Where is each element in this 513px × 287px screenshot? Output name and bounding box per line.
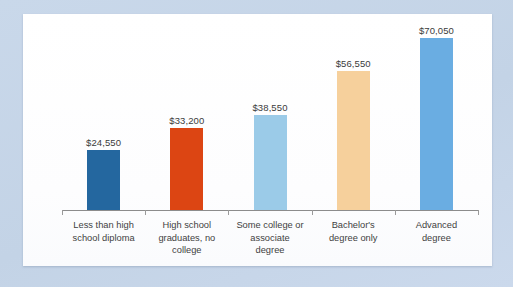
x-axis-tick [228, 210, 229, 215]
bar-bachelors-degree-only[interactable] [337, 71, 370, 210]
bar-column: $24,550 [62, 24, 145, 210]
x-axis-line [62, 210, 479, 211]
x-axis-tick [62, 210, 63, 215]
x-axis-category-labels: Less than highschool diploma High school… [62, 219, 478, 257]
chart-screenshot: $24,550 $33,200 $38,550 $56,550 $70,050 [0, 0, 513, 287]
bar-value-label: $70,050 [419, 25, 454, 36]
bar-some-college-or-associate[interactable] [254, 115, 287, 210]
bar-value-label: $24,550 [86, 137, 121, 148]
x-label-some-college-or-associate: Some college orassociatedegree [228, 219, 311, 257]
bar-column: $38,550 [228, 24, 311, 210]
bar-value-label: $56,550 [336, 58, 371, 69]
bar-column: $33,200 [145, 24, 228, 210]
plot-area: $24,550 $33,200 $38,550 $56,550 $70,050 [62, 24, 478, 210]
x-label-advanced-degree: Advanceddegree [395, 219, 478, 257]
x-axis-tick [145, 210, 146, 215]
bar-value-label: $33,200 [169, 115, 204, 126]
x-label-less-than-high-school: Less than highschool diploma [62, 219, 145, 257]
bar-less-than-high-school[interactable] [87, 150, 120, 210]
x-label-high-school-graduates: High schoolgraduates, nocollege [145, 219, 228, 257]
bar-advanced-degree[interactable] [420, 38, 453, 210]
x-label-bachelors-degree-only: Bachelor'sdegree only [312, 219, 395, 257]
bar-series: $24,550 $33,200 $38,550 $56,550 $70,050 [62, 24, 478, 210]
x-axis-tick [478, 210, 479, 215]
chart-panel: $24,550 $33,200 $38,550 $56,550 $70,050 [23, 14, 492, 266]
bar-value-label: $38,550 [252, 102, 287, 113]
bar-column: $56,550 [312, 24, 395, 210]
bar-column: $70,050 [395, 24, 478, 210]
x-axis-tick [312, 210, 313, 215]
bar-high-school-graduates[interactable] [170, 128, 203, 210]
x-axis-tick [395, 210, 396, 215]
